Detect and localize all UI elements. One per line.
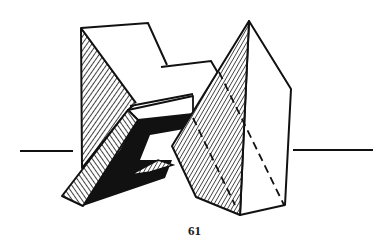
pyramid-with-hidden-edges <box>172 21 291 215</box>
geometric-solids-illustration <box>0 0 389 251</box>
page-number: 61 <box>0 223 389 239</box>
